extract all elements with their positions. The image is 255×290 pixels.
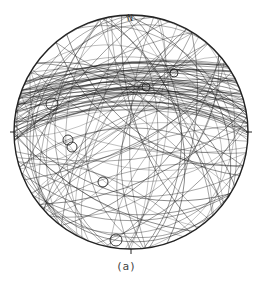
north-label: N xyxy=(127,14,133,23)
stereonet-plot xyxy=(0,0,255,290)
figure-caption: (a) xyxy=(116,260,136,273)
great-circle-traces xyxy=(0,0,255,258)
pole-marker xyxy=(98,177,108,187)
